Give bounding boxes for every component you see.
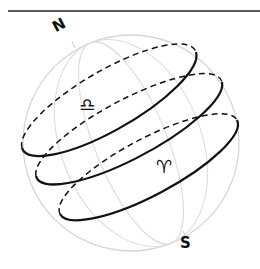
aries-symbol-icon: ♈	[156, 158, 172, 176]
diurnal-circle-middle	[36, 74, 223, 185]
south-label: S	[180, 236, 191, 251]
diagram-canvas	[0, 0, 260, 269]
sphere-outline	[23, 35, 239, 251]
libra-symbol-icon: ♎	[79, 96, 95, 114]
north-pole-tick	[72, 41, 75, 48]
celestial-sphere-diagram: N S ♎ ♈	[0, 0, 260, 269]
